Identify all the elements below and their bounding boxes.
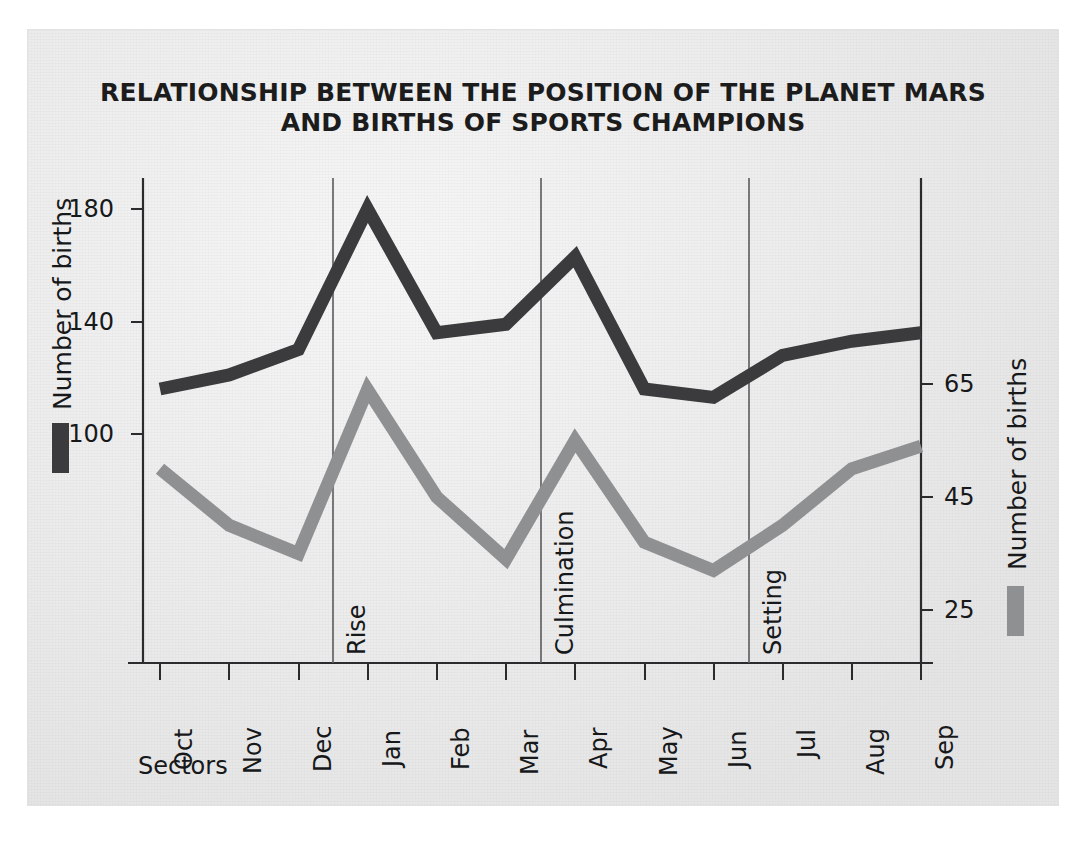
x-tick-label-may: May [655, 726, 683, 776]
right-axis-title: Number of births [1003, 358, 1032, 570]
x-tick-label-sep: Sep [931, 725, 959, 770]
right-tick-label-25: 25 [944, 596, 975, 624]
x-tick-label-jan: Jan [378, 730, 406, 767]
x-tick-label-feb: Feb [447, 728, 475, 771]
legend-swatch-light [1007, 586, 1024, 636]
screenshot-page: RELATIONSHIP BETWEEN THE POSITION OF THE… [0, 0, 1086, 845]
x-axis-ticks [160, 663, 921, 680]
right-axis-ticks [921, 384, 933, 610]
annotation-label-setting: Setting [759, 569, 787, 655]
x-tick-label-apr: Apr [585, 727, 613, 769]
x-axis-caption: Sectors [138, 752, 228, 780]
chart-figure-panel: RELATIONSHIP BETWEEN THE POSITION OF THE… [28, 30, 1058, 805]
left-axis-ticks [131, 209, 143, 434]
x-tick-label-mar: Mar [516, 730, 544, 775]
annotation-label-rise: Rise [343, 604, 371, 655]
plot-area: 180 140 100 65 45 25 Number of births Nu… [28, 30, 1058, 805]
x-tick-label-nov: Nov [239, 727, 267, 774]
right-tick-label-45: 45 [944, 483, 975, 511]
chart-plot-svg [28, 30, 1058, 805]
x-tick-label-jul: Jul [793, 729, 821, 758]
x-tick-label-jun: Jun [724, 731, 752, 769]
annotation-label-culmination: Culmination [551, 510, 579, 655]
left-axis-title: Number of births [48, 198, 77, 410]
legend-swatch-dark [52, 423, 69, 473]
right-tick-label-65: 65 [944, 370, 975, 398]
x-tick-label-aug: Aug [862, 728, 890, 775]
x-tick-label-dec: Dec [309, 726, 337, 772]
